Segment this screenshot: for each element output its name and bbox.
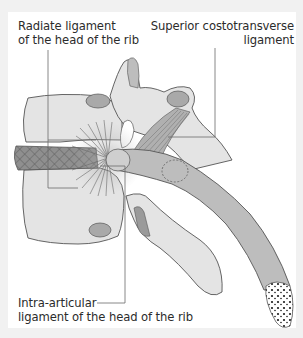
label-radiate-ligament: Radiate ligament of the head of the rib xyxy=(18,19,139,47)
label-intra-line2: ligament of the head of the rib xyxy=(18,310,193,324)
label-radiate-line1: Radiate ligament xyxy=(18,19,139,33)
costovertebral-diagram xyxy=(0,0,303,338)
inferior-process xyxy=(126,194,222,295)
label-intra-line1: Intra-articular xyxy=(18,296,193,310)
label-intra-articular-ligament: Intra-articular ligament of the head of … xyxy=(18,296,193,324)
label-superior-costotransverse-ligament: Superior costotransverse ligament xyxy=(151,19,294,47)
label-radiate-line2: of the head of the rib xyxy=(18,33,139,47)
label-superior-line2: ligament xyxy=(151,33,294,47)
label-superior-line1: Superior costotransverse xyxy=(151,19,294,33)
